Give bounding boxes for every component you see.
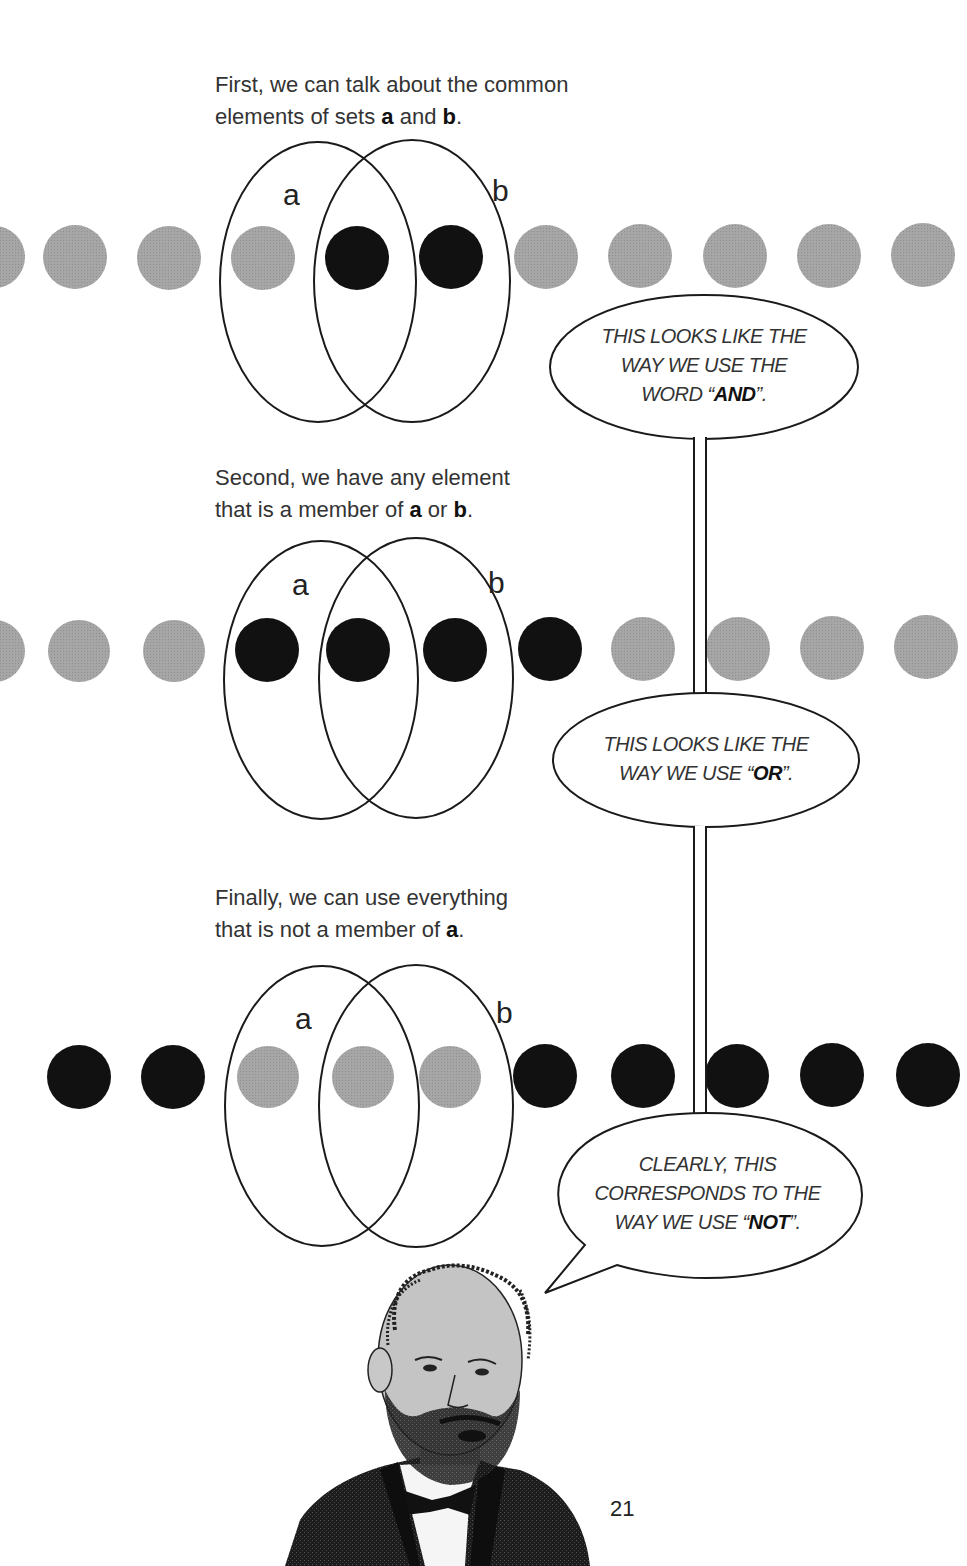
set-element-dot bbox=[891, 223, 955, 287]
venn-label-b: b bbox=[496, 996, 513, 1030]
section-not-dots bbox=[47, 1043, 960, 1109]
set-element-dot bbox=[423, 618, 487, 682]
set-variable-a: a bbox=[409, 497, 421, 522]
set-element-dot bbox=[419, 225, 483, 289]
set-element-dot bbox=[611, 1044, 675, 1108]
set-element-dot bbox=[800, 1043, 864, 1107]
keyword-and: AND bbox=[714, 383, 756, 405]
set-element-dot bbox=[419, 1046, 481, 1108]
caption-or: Second, we have any element that is a me… bbox=[215, 462, 510, 526]
set-element-dot bbox=[48, 620, 110, 682]
set-element-dot bbox=[0, 226, 25, 288]
set-element-dot bbox=[518, 617, 582, 681]
set-variable-a: a bbox=[446, 917, 458, 942]
set-element-dot bbox=[332, 1046, 394, 1108]
venn-label-a: a bbox=[295, 1002, 312, 1036]
set-element-dot bbox=[513, 1044, 577, 1108]
venn-label-b: b bbox=[488, 566, 505, 600]
set-element-dot bbox=[703, 224, 767, 288]
caption-line: Finally, we can use everything bbox=[215, 882, 508, 914]
set-element-dot bbox=[611, 617, 675, 681]
set-element-dot bbox=[797, 224, 861, 288]
set-element-dot bbox=[0, 620, 25, 682]
set-element-dot bbox=[706, 617, 770, 681]
set-element-dot bbox=[237, 1046, 299, 1108]
bearded-man-portrait bbox=[285, 1265, 590, 1566]
section-and-dots bbox=[0, 223, 955, 290]
caption-line: elements of sets a and b. bbox=[215, 101, 568, 133]
set-variable-a: a bbox=[381, 104, 393, 129]
set-element-dot bbox=[896, 1043, 960, 1107]
set-element-dot bbox=[608, 224, 672, 288]
venn-label-b: b bbox=[492, 174, 509, 208]
set-element-dot bbox=[705, 1044, 769, 1108]
caption-not: Finally, we can use everything that is n… bbox=[215, 882, 508, 946]
set-variable-b: b bbox=[443, 104, 456, 129]
section-or-dots bbox=[0, 615, 958, 682]
caption-line: Second, we have any element bbox=[215, 462, 510, 494]
set-element-dot bbox=[894, 615, 958, 679]
caption-and: First, we can talk about the common elem… bbox=[215, 69, 568, 133]
set-element-dot bbox=[235, 618, 299, 682]
keyword-not: NOT bbox=[749, 1211, 790, 1233]
set-element-dot bbox=[141, 1045, 205, 1109]
set-element-dot bbox=[143, 620, 205, 682]
set-b-circle bbox=[319, 965, 513, 1247]
venn-label-a: a bbox=[283, 178, 300, 212]
set-element-dot bbox=[137, 226, 201, 290]
set-element-dot bbox=[514, 225, 578, 289]
set-element-dot bbox=[325, 226, 389, 290]
venn-label-a: a bbox=[292, 568, 309, 602]
set-element-dot bbox=[47, 1045, 111, 1109]
set-element-dot bbox=[231, 226, 295, 290]
caption-line: that is not a member of a. bbox=[215, 914, 508, 946]
set-element-dot bbox=[43, 225, 107, 289]
speech-bubble-and-text: THIS LOOKS LIKE THE WAY WE USE THE WORD … bbox=[570, 322, 838, 409]
set-element-dot bbox=[800, 616, 864, 680]
set-element-dot bbox=[326, 618, 390, 682]
set-variable-b: b bbox=[453, 497, 466, 522]
page-number: 21 bbox=[610, 1496, 634, 1522]
keyword-or: OR bbox=[753, 762, 782, 784]
set-a-circle bbox=[225, 966, 419, 1246]
set-a-circle bbox=[224, 541, 418, 819]
caption-line: First, we can talk about the common bbox=[215, 69, 568, 101]
caption-line: that is a member of a or b. bbox=[215, 494, 510, 526]
speech-bubble-or-text: THIS LOOKS LIKE THE WAY WE USE “OR”. bbox=[572, 730, 840, 788]
speech-bubble-not-text: CLEARLY, THIS CORRESPONDS TO THE WAY WE … bbox=[570, 1150, 845, 1237]
